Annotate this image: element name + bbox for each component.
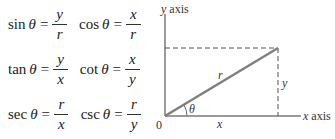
hypotenuse-label: r xyxy=(218,68,223,82)
theta-angle-label: θ xyxy=(189,102,195,116)
origin-label: 0 xyxy=(156,118,162,132)
hypotenuse-line xyxy=(165,48,278,116)
opposite-side-label: y xyxy=(281,76,288,90)
angle-arc xyxy=(184,105,187,116)
x-axis-label: x axis xyxy=(302,109,331,123)
y-axis-label: y axis xyxy=(160,2,189,16)
adjacent-side-label: x xyxy=(216,117,223,131)
right-triangle-diagram: y axis x axis 0 r x y θ xyxy=(0,0,335,139)
